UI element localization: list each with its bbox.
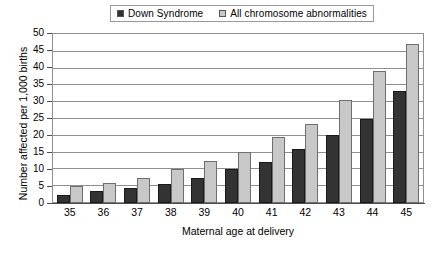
x-axis-tick-label: 38 bbox=[154, 206, 188, 218]
bar-group bbox=[120, 34, 154, 203]
x-axis-tick-label: 43 bbox=[322, 206, 356, 218]
bar-group bbox=[188, 34, 222, 203]
bar bbox=[225, 169, 238, 203]
bar-group bbox=[288, 34, 322, 203]
bar bbox=[204, 161, 217, 203]
x-axis-tick-labels: 3536373839404142434445 bbox=[53, 206, 423, 218]
bar bbox=[406, 44, 419, 203]
legend-swatch-icon bbox=[219, 10, 226, 17]
bar bbox=[137, 178, 150, 203]
bar bbox=[57, 195, 70, 203]
y-axis-tick-label: 0 bbox=[38, 198, 44, 208]
y-axis-tick-label: 35 bbox=[33, 79, 44, 89]
bar bbox=[326, 135, 339, 203]
bar-group bbox=[356, 34, 390, 203]
bar-group bbox=[87, 34, 121, 203]
bar bbox=[191, 178, 204, 203]
bar-group bbox=[154, 34, 188, 203]
bar bbox=[171, 169, 184, 203]
bar bbox=[272, 137, 285, 203]
bar bbox=[238, 152, 251, 203]
legend-label: Down Syndrome bbox=[128, 9, 203, 19]
bars-container bbox=[53, 34, 423, 203]
y-axis-tick-label: 5 bbox=[38, 181, 44, 191]
bar bbox=[70, 186, 83, 203]
bar bbox=[373, 71, 386, 203]
bar bbox=[259, 162, 272, 203]
bar bbox=[292, 149, 305, 203]
bar bbox=[124, 188, 137, 203]
bar-group bbox=[221, 34, 255, 203]
x-axis-tick-label: 41 bbox=[255, 206, 289, 218]
y-axis-tick-label: 20 bbox=[33, 130, 44, 140]
bar-group bbox=[389, 34, 423, 203]
legend-label: All chromosome abnormalities bbox=[230, 9, 367, 19]
bar-chart: Down Syndrome All chromosome abnormaliti… bbox=[0, 0, 448, 255]
legend-item-down-syndrome: Down Syndrome bbox=[117, 9, 203, 19]
x-axis-tick-label: 36 bbox=[87, 206, 121, 218]
x-axis-tick-label: 37 bbox=[120, 206, 154, 218]
bar bbox=[339, 100, 352, 203]
y-axis-tick-label: 45 bbox=[33, 45, 44, 55]
bar bbox=[90, 191, 103, 203]
x-axis-tick-label: 44 bbox=[356, 206, 390, 218]
y-axis-tick-label: 40 bbox=[33, 62, 44, 72]
bar bbox=[360, 119, 373, 204]
bar bbox=[103, 183, 116, 203]
x-axis-tick-label: 42 bbox=[288, 206, 322, 218]
chart-legend: Down Syndrome All chromosome abnormaliti… bbox=[110, 5, 374, 22]
bar bbox=[305, 124, 318, 203]
y-axis-tick-label: 10 bbox=[33, 164, 44, 174]
x-axis-tick-label: 40 bbox=[221, 206, 255, 218]
y-axis-tick-label: 15 bbox=[33, 147, 44, 157]
bar-group bbox=[322, 34, 356, 203]
x-axis-tick-label: 45 bbox=[389, 206, 423, 218]
x-axis-tick-label: 39 bbox=[188, 206, 222, 218]
legend-swatch-icon bbox=[117, 10, 124, 17]
bar-group bbox=[255, 34, 289, 203]
bar-group bbox=[53, 34, 87, 203]
y-axis-tick-label: 30 bbox=[33, 96, 44, 106]
y-axis-tick-label: 25 bbox=[33, 113, 44, 123]
legend-item-all-chromosome-abnormalities: All chromosome abnormalities bbox=[219, 9, 367, 19]
x-axis-title: Maternal age at delivery bbox=[52, 225, 424, 237]
bar bbox=[158, 184, 171, 203]
bar bbox=[393, 91, 406, 203]
x-axis-line bbox=[52, 203, 425, 204]
y-axis-tick-label: 50 bbox=[33, 28, 44, 38]
x-axis-tick-label: 35 bbox=[53, 206, 87, 218]
y-axis-ticks: 50454035302520151050 bbox=[20, 33, 52, 203]
